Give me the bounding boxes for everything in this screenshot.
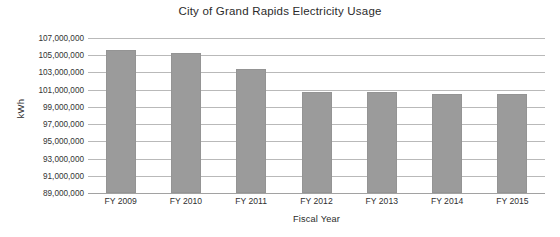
x-axis-tick: FY 2009 [86, 196, 156, 206]
y-axis-tick-labels: 107,000,000105,000,000103,000,000101,000… [0, 0, 84, 237]
plot-area [88, 38, 545, 193]
bar [497, 94, 527, 193]
x-axis-tick: FY 2013 [347, 196, 417, 206]
bar [236, 69, 266, 193]
x-axis-tick: FY 2012 [282, 196, 352, 206]
gridline [88, 55, 545, 56]
chart-title: City of Grand Rapids Electricity Usage [0, 5, 560, 17]
gridline [88, 90, 545, 91]
bar [367, 92, 397, 193]
y-axis-tick: 99,000,000 [43, 102, 84, 111]
x-axis-tick: FY 2014 [412, 196, 482, 206]
y-axis-tick: 101,000,000 [38, 85, 84, 94]
y-axis-tick: 91,000,000 [43, 171, 84, 180]
y-axis-tick: 89,000,000 [43, 189, 84, 198]
bar [432, 94, 462, 193]
y-axis-tick: 103,000,000 [38, 68, 84, 77]
bar [302, 92, 332, 193]
x-axis-label: Fiscal Year [88, 214, 545, 224]
gridline [88, 72, 545, 73]
x-axis-tick: FY 2015 [477, 196, 547, 206]
bar [106, 50, 136, 193]
x-axis-tick-labels: FY 2009FY 2010FY 2011FY 2012FY 2013FY 20… [88, 196, 545, 212]
bar [171, 53, 201, 193]
y-axis-tick: 95,000,000 [43, 137, 84, 146]
y-axis-tick: 107,000,000 [38, 34, 84, 43]
bar-chart: City of Grand Rapids Electricity Usage k… [0, 0, 560, 237]
y-axis-tick: 105,000,000 [38, 51, 84, 60]
x-axis-tick: FY 2011 [216, 196, 286, 206]
gridline [88, 193, 545, 194]
y-axis-tick: 97,000,000 [43, 120, 84, 129]
gridline [88, 38, 545, 39]
y-axis-tick: 93,000,000 [43, 154, 84, 163]
x-axis-tick: FY 2010 [151, 196, 221, 206]
